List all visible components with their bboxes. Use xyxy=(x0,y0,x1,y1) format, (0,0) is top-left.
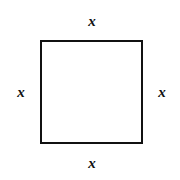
figure-canvas: x x x x xyxy=(0,0,180,180)
side-label-left: x xyxy=(12,85,30,100)
side-label-bottom: x xyxy=(0,156,180,171)
side-label-right: x xyxy=(153,85,171,100)
side-label-top: x xyxy=(0,14,180,29)
square-shape xyxy=(40,40,143,144)
